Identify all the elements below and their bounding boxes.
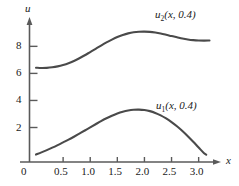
lower-curve-label: u1(x, 0.4) [156, 100, 197, 114]
upper-curve-label: u2(x, 0.4) [155, 9, 196, 23]
x-tick-label: 1.0 [81, 166, 95, 177]
x-tick-label: 2.5 [163, 166, 177, 177]
curve-u2 [36, 32, 209, 68]
x-axis-arrowhead [213, 159, 221, 165]
y-axis-arrowhead [27, 17, 33, 25]
curve-u1 [36, 110, 206, 155]
origin-tick-label: 0 [21, 166, 27, 177]
y-tick-label: 2 [16, 122, 22, 133]
curve-label-args: (x, 0.4) [165, 99, 196, 111]
figure-plot: u x 0 0.51.01.52.02.53.0 2468 u2(x, 0.4)… [0, 0, 239, 186]
y-axis-ticks [30, 46, 38, 127]
y-tick-label: 4 [16, 94, 22, 105]
y-tick-label: 8 [16, 40, 22, 51]
x-tick-label: 1.5 [108, 166, 122, 177]
x-axis-label: x [226, 155, 231, 166]
x-tick-label: 0.5 [54, 166, 68, 177]
plot-canvas [0, 0, 239, 186]
y-tick-label: 6 [16, 67, 22, 78]
x-tick-label: 3.0 [190, 166, 204, 177]
y-axis-label: u [25, 3, 31, 14]
x-tick-label: 2.0 [135, 166, 149, 177]
curve-label-args: (x, 0.4) [164, 8, 195, 20]
